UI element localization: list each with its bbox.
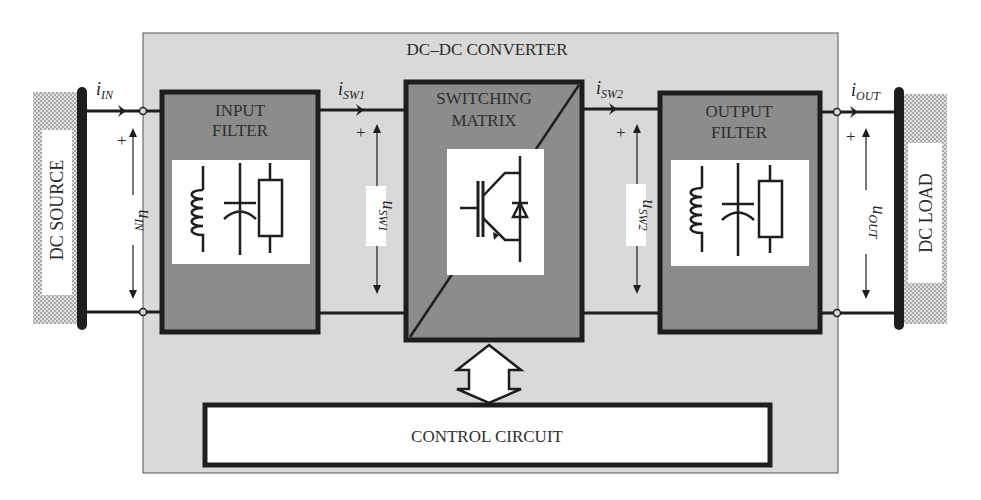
load-label: DC LOAD [916,173,936,253]
converter-title: DC–DC CONVERTER [407,40,569,59]
i-in-label: iIN [96,79,114,102]
u-sw2-plus: + [616,123,626,142]
input-filter-block: INPUT FILTER [162,92,318,332]
u-sw1-plus: + [356,123,366,142]
terminal-out-top [834,109,841,116]
arrow-down-icon [862,290,870,299]
arrow-up-icon [862,128,870,137]
source-label: DC SOURCE [47,160,67,261]
switching-matrix-title-2: MATRIX [451,111,516,130]
terminal-out-bottom [834,310,841,317]
control-circuit-label: CONTROL CIRCUIT [411,427,564,446]
switch-schematic-bg [447,149,544,275]
u-out-label: uOUT [866,205,889,239]
input-filter-title-2: FILTER [212,121,269,140]
output-filter-block: OUTPUT FILTER [660,93,820,332]
terminal-in-top [140,108,147,115]
dc-load: DC LOAD [899,92,947,325]
dc-source: DC SOURCE [33,92,82,325]
terminal-in-bottom [140,309,147,316]
i-out-label: iOUT [851,80,881,103]
switching-matrix-title-1: SWITCHING [436,89,531,108]
u-out-plus: + [846,127,856,146]
output-filter-title-2: FILTER [711,123,768,142]
dc-dc-converter-diagram: DC–DC CONVERTER DC SOURCE DC LOAD [0,0,981,500]
u-in-plus: + [117,131,127,150]
control-circuit-block: CONTROL CIRCUIT [205,405,770,465]
input-filter-title-1: INPUT [215,101,266,120]
switching-matrix-block: SWITCHING MATRIX [406,82,582,340]
output-filter-title-1: OUTPUT [705,102,773,121]
